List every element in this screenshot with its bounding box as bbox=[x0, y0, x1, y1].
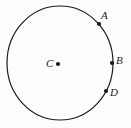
center-point-label: C bbox=[46, 58, 53, 69]
center-point-dot bbox=[56, 62, 60, 66]
circle-geometry-figure: C A B D bbox=[0, 0, 131, 128]
circle-outline bbox=[7, 6, 113, 120]
point-a-label: A bbox=[101, 10, 108, 21]
point-b-label: B bbox=[116, 55, 123, 66]
point-d-dot bbox=[104, 89, 108, 93]
figure-canvas bbox=[0, 0, 131, 128]
point-a-dot bbox=[97, 22, 101, 26]
point-b-dot bbox=[110, 61, 114, 65]
point-d-label: D bbox=[110, 87, 118, 98]
